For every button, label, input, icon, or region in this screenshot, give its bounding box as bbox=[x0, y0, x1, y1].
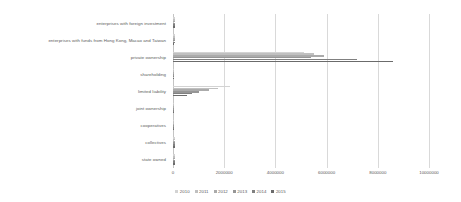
legend-item[interactable]: 2011 bbox=[195, 189, 209, 194]
bar-group bbox=[173, 137, 429, 148]
chart-legend: 201020112012201320142015 bbox=[0, 186, 461, 196]
legend-swatch bbox=[195, 190, 198, 193]
bar bbox=[173, 163, 175, 165]
bar-group bbox=[173, 86, 429, 97]
legend-swatch bbox=[214, 190, 217, 193]
bar-group bbox=[173, 69, 429, 80]
bar bbox=[173, 43, 174, 45]
bar bbox=[173, 146, 175, 148]
category-label: joint ownership bbox=[136, 106, 166, 111]
bar bbox=[173, 26, 175, 28]
legend-swatch bbox=[271, 190, 274, 193]
legend-label: 2013 bbox=[237, 189, 247, 194]
bar bbox=[173, 78, 174, 80]
plot-area bbox=[173, 14, 429, 168]
value-axis-tick: 10000000 bbox=[419, 170, 439, 175]
value-axis-tick: 0 bbox=[172, 170, 174, 175]
bar bbox=[173, 112, 174, 114]
category-label: limited liability bbox=[138, 89, 166, 94]
value-axis-tick: 6000000 bbox=[318, 170, 335, 175]
category-label: enterprises with funds from Hong Kong, M… bbox=[48, 37, 166, 42]
bar-group bbox=[173, 52, 429, 63]
bar bbox=[173, 61, 393, 63]
category-label: shareholding bbox=[140, 71, 166, 76]
bar-chart: enterprises with foreign investmententer… bbox=[0, 0, 461, 202]
bar-group bbox=[173, 103, 429, 114]
legend-label: 2012 bbox=[218, 189, 228, 194]
bar bbox=[173, 95, 187, 97]
legend-swatch bbox=[233, 190, 236, 193]
legend-swatch bbox=[175, 190, 178, 193]
bar-group bbox=[173, 120, 429, 131]
value-axis-tick: 8000000 bbox=[369, 170, 386, 175]
bar-group bbox=[173, 154, 429, 165]
legend-item[interactable]: 2015 bbox=[271, 189, 285, 194]
legend-swatch bbox=[252, 190, 255, 193]
value-axis-tick: 4000000 bbox=[267, 170, 284, 175]
category-label: collectives bbox=[145, 140, 166, 145]
legend-label: 2010 bbox=[180, 189, 190, 194]
bar bbox=[173, 129, 174, 131]
category-axis-labels: enterprises with foreign investmententer… bbox=[0, 14, 170, 168]
category-label: enterprises with foreign investment bbox=[96, 20, 166, 25]
value-axis-labels: 0200000040000006000000800000010000000 bbox=[173, 168, 429, 180]
bar-group bbox=[173, 17, 429, 28]
legend-item[interactable]: 2014 bbox=[252, 189, 266, 194]
bar-group bbox=[173, 34, 429, 45]
category-label: state owned bbox=[142, 157, 166, 162]
legend-label: 2011 bbox=[199, 189, 208, 194]
legend-item[interactable]: 2010 bbox=[175, 189, 189, 194]
category-label: cooperatives bbox=[141, 123, 167, 128]
value-axis-tick: 2000000 bbox=[216, 170, 233, 175]
category-label: private ownership bbox=[131, 54, 166, 59]
gridline bbox=[429, 14, 430, 168]
legend-item[interactable]: 2013 bbox=[233, 189, 247, 194]
legend-item[interactable]: 2012 bbox=[214, 189, 228, 194]
legend-label: 2014 bbox=[257, 189, 267, 194]
legend-label: 2015 bbox=[276, 189, 286, 194]
